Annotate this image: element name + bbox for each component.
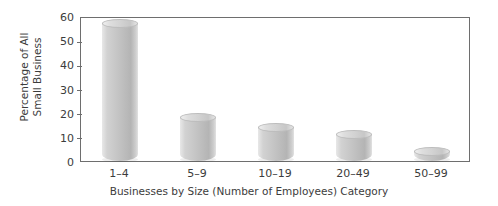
bar-top-ellipse bbox=[258, 123, 294, 132]
y-axis-tick-label: 0 bbox=[48, 156, 74, 169]
x-axis-tick-label: 1–4 bbox=[109, 167, 129, 180]
bar-top-ellipse bbox=[414, 147, 450, 156]
bar-top-ellipse bbox=[336, 130, 372, 139]
x-axis-tick-label: 50–99 bbox=[414, 167, 448, 180]
bar-body bbox=[336, 134, 372, 161]
bar bbox=[180, 118, 216, 162]
y-axis-title-line-2: Small Business bbox=[31, 38, 44, 117]
y-axis-tick-mark bbox=[77, 66, 82, 67]
bar-top-ellipse bbox=[102, 19, 138, 28]
x-axis-tick-label: 5–9 bbox=[187, 167, 207, 180]
bar bbox=[336, 134, 372, 161]
plot-area bbox=[80, 17, 470, 162]
y-axis-tick-label: 40 bbox=[48, 59, 74, 72]
bar bbox=[414, 151, 450, 161]
bar-chart: Percentage of All Small Business 0102030… bbox=[0, 0, 498, 206]
y-axis-tick-label: 30 bbox=[48, 83, 74, 96]
y-axis-tick-mark bbox=[77, 114, 82, 115]
y-axis-tick-label: 20 bbox=[48, 107, 74, 120]
y-axis-tick-mark bbox=[77, 138, 82, 139]
bar-top-ellipse bbox=[180, 113, 216, 122]
x-axis-tick-label: 20–49 bbox=[336, 167, 370, 180]
x-axis-title: Businesses by Size (Number of Employees)… bbox=[0, 185, 498, 197]
bar bbox=[258, 127, 294, 161]
y-axis-title-line-1: Percentage of All bbox=[18, 33, 31, 122]
bar-body bbox=[258, 127, 294, 161]
y-axis-tick-label: 60 bbox=[48, 11, 74, 24]
bar-body bbox=[180, 118, 216, 162]
x-axis-tick-label: 10–19 bbox=[258, 167, 292, 180]
y-axis-tick-label: 50 bbox=[48, 35, 74, 48]
y-axis-title: Percentage of All Small Business bbox=[14, 2, 48, 152]
bar bbox=[102, 23, 138, 161]
y-axis-tick-mark bbox=[77, 42, 82, 43]
y-axis-tick-mark bbox=[77, 90, 82, 91]
y-axis-tick-label: 10 bbox=[48, 131, 74, 144]
y-axis-tick-labels: 0102030405060 bbox=[48, 0, 74, 206]
bar-body bbox=[102, 23, 138, 161]
